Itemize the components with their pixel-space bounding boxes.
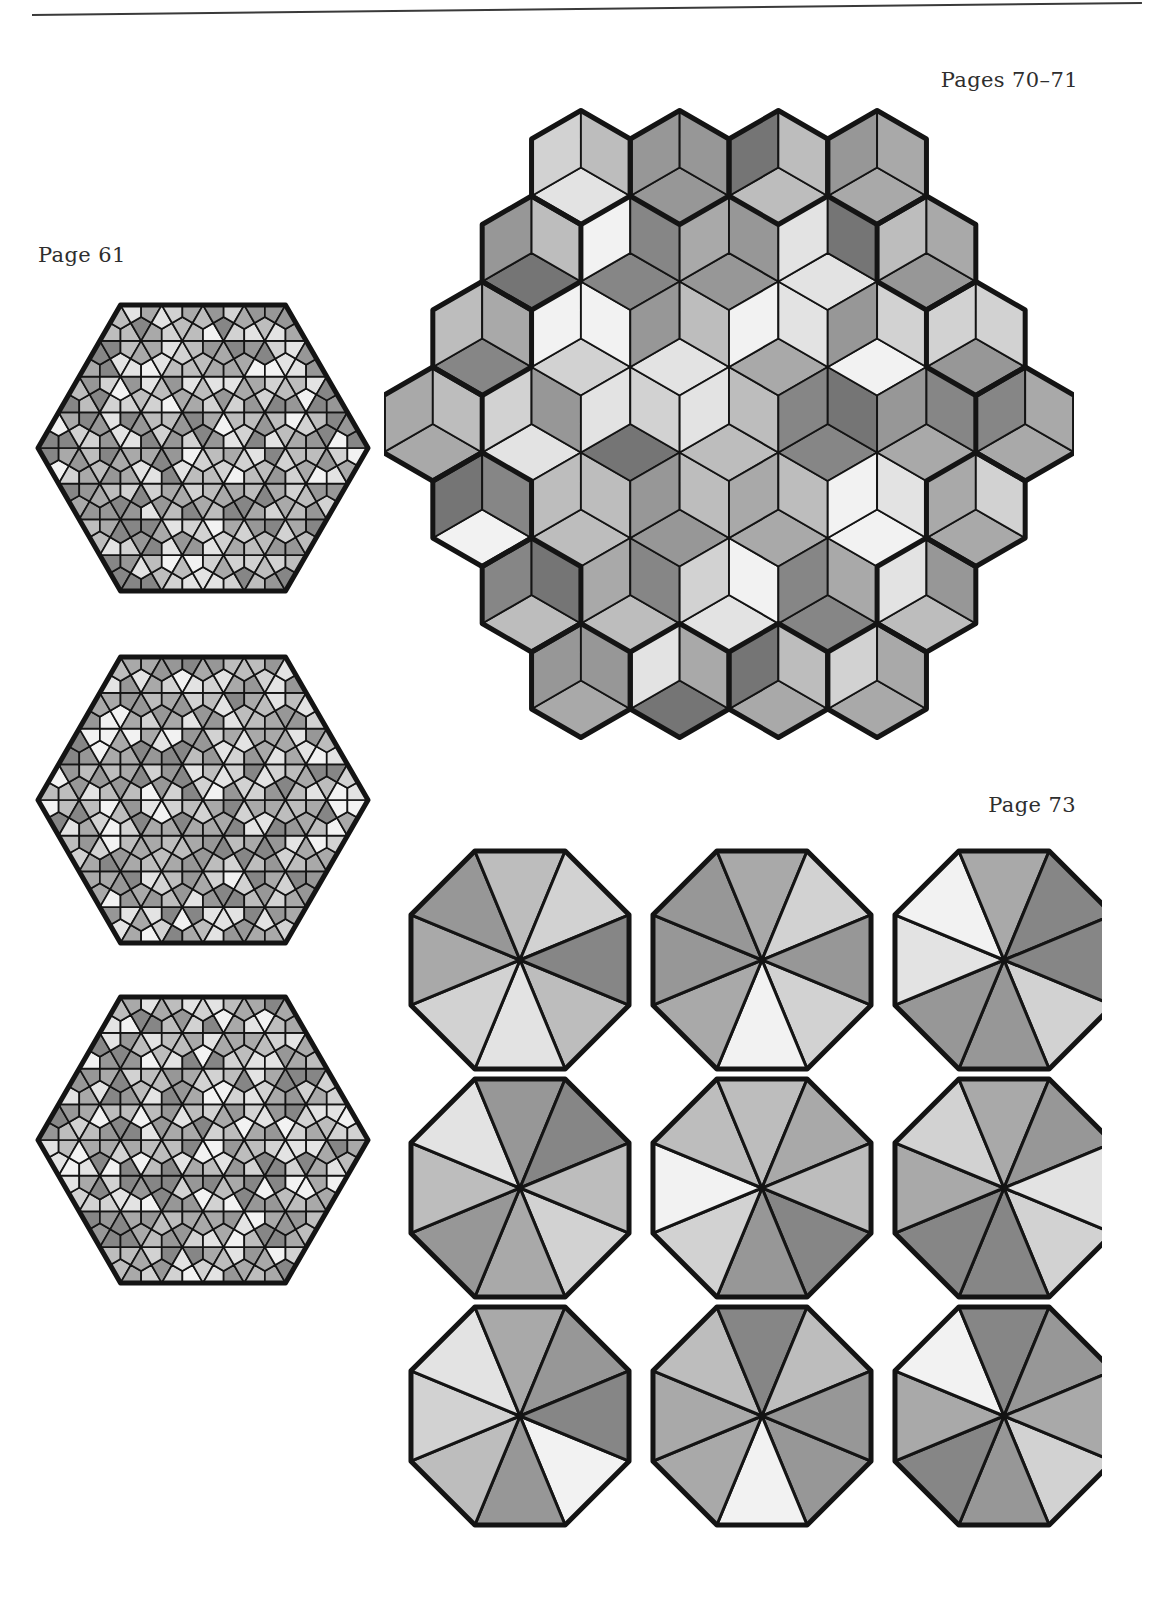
caption-page-73: Page 73 — [988, 793, 1076, 817]
octagon — [411, 851, 629, 1069]
octagon — [653, 1307, 871, 1525]
octagon — [411, 1079, 629, 1297]
caption-page-61: Page 61 — [38, 243, 126, 267]
header-rule — [32, 2, 1142, 16]
page-canvas: Pages 70–71 Page 61 Page 73 — [0, 0, 1156, 1617]
octagon — [653, 1079, 871, 1297]
octagon — [895, 1079, 1102, 1297]
octagon — [895, 851, 1102, 1069]
octagon — [653, 851, 871, 1069]
octagon — [411, 1307, 629, 1525]
octagon — [895, 1307, 1102, 1525]
